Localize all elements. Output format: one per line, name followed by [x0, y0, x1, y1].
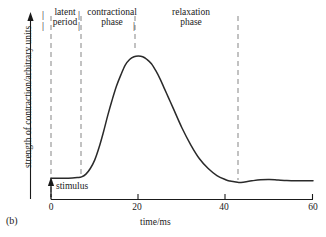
y-axis-label: strength of contraction/arbitrary units: [24, 7, 34, 187]
x-tick-label-0: 0: [41, 203, 61, 213]
relaxation-phase-line2: phase: [148, 18, 234, 28]
stimulus-label: stimulus: [56, 182, 88, 192]
phase-separator-pipe-left: |: [42, 9, 44, 20]
panel-label: (b): [6, 216, 18, 227]
relaxation-phase-label: relaxation phase: [148, 8, 234, 28]
x-tick-label-60: 60: [303, 203, 323, 213]
phase-separator-pipe-left-2: |: [42, 20, 44, 31]
contractional-phase-line2: phase: [84, 18, 140, 28]
x-tick-label-40: 40: [214, 203, 234, 213]
x-tick-label-20: 20: [127, 203, 147, 213]
latent-period-line2: period: [45, 18, 85, 28]
contractional-phase-label: contractional phase: [84, 8, 140, 28]
latent-period-label: latent period: [45, 8, 85, 28]
x-axis-label: time/ms: [140, 218, 171, 228]
